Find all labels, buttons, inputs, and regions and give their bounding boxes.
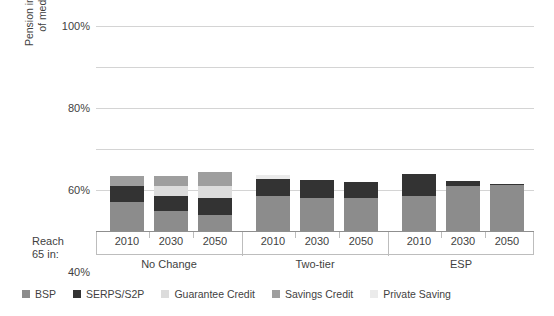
pension-income-stacked-bar-chart: Pension income as percentage of median e… [0, 0, 554, 316]
x-tick-label-no-change-2030: 2030 [149, 235, 193, 247]
x-tick-label-esp-2050: 2050 [485, 235, 529, 247]
legend-item-private-saving[interactable]: Private Saving [370, 288, 451, 300]
x-axis-group-labels: No ChangeTwo-tierESP [96, 256, 534, 278]
legend-swatch-icon [370, 290, 378, 298]
x-tick-label-esp-2030: 2030 [441, 235, 485, 247]
legend-swatch-icon [161, 290, 169, 298]
bar-segment-serps-s2p [198, 198, 232, 214]
bar-no-change-2010[interactable] [110, 176, 144, 231]
bar-segment-savings-credit [198, 172, 232, 186]
bar-segment-bsp [256, 196, 290, 231]
bar-no-change-2030[interactable] [154, 176, 188, 231]
bar-no-change-2050[interactable] [198, 172, 232, 231]
bar-segment-serps-s2p [154, 196, 188, 210]
bar-segment-serps-s2p [256, 179, 290, 196]
x-axis-tick [485, 232, 486, 238]
bars-layer [96, 26, 534, 232]
bar-two-tier-2030[interactable] [300, 180, 334, 231]
x-axis-tick [441, 232, 442, 238]
x-axis-tick [339, 232, 340, 238]
legend-label: Private Saving [383, 288, 451, 300]
legend-swatch-icon [73, 290, 81, 298]
group-label-esp: ESP [388, 258, 534, 270]
bar-segment-bsp [110, 202, 144, 231]
legend-swatch-icon [22, 290, 30, 298]
x-axis-year-labels: 201020302050201020302050201020302050 [96, 232, 534, 255]
y-axis-title-line-2: of median earnings at 75 [36, 0, 49, 32]
y-tick-label-60: 60% [68, 184, 90, 196]
x-axis-tick [533, 232, 534, 254]
legend-item-serps-s2p[interactable]: SERPS/S2P [73, 288, 144, 300]
bar-segment-serps-s2p [344, 182, 378, 198]
bar-esp-2010[interactable] [402, 174, 436, 231]
group-separator [388, 232, 389, 256]
reach-label-line-1: Reach [32, 235, 94, 248]
bar-esp-2050[interactable] [490, 184, 524, 231]
legend-item-bsp[interactable]: BSP [22, 288, 56, 300]
bar-segment-savings-credit [154, 176, 188, 186]
y-tick-label-40: 40% [68, 266, 90, 278]
bar-segment-guarantee-credit [154, 186, 188, 196]
bar-segment-bsp [344, 198, 378, 231]
bar-segment-bsp [154, 211, 188, 232]
y-axis-title-line-1: Pension income as percentage [23, 0, 36, 46]
reach-65-in-label: Reach 65 in: [32, 235, 94, 261]
group-separator [242, 232, 243, 256]
bar-two-tier-2010[interactable] [256, 175, 290, 231]
x-tick-label-no-change-2010: 2010 [105, 235, 149, 247]
bar-segment-bsp [446, 186, 480, 231]
x-tick-label-two-tier-2030: 2030 [295, 235, 339, 247]
x-axis-tick [149, 232, 150, 238]
legend-item-savings-credit[interactable]: Savings Credit [272, 288, 353, 300]
x-axis-tick [193, 232, 194, 238]
bar-segment-bsp [300, 198, 334, 231]
bar-segment-serps-s2p [110, 186, 144, 202]
bar-esp-2030[interactable] [446, 181, 480, 231]
legend-item-guarantee-credit[interactable]: Guarantee Credit [161, 288, 255, 300]
x-tick-label-two-tier-2050: 2050 [339, 235, 383, 247]
bar-segment-serps-s2p [300, 180, 334, 198]
legend-label: Guarantee Credit [174, 288, 255, 300]
x-axis-tick [96, 232, 97, 254]
y-tick-label-80: 80% [68, 102, 90, 114]
bar-segment-bsp [490, 185, 524, 231]
bar-two-tier-2050[interactable] [344, 182, 378, 231]
y-tick-label-100: 100% [62, 20, 90, 32]
reach-label-line-2: 65 in: [32, 248, 94, 261]
bar-segment-serps-s2p [402, 174, 436, 197]
group-label-no-change: No Change [96, 258, 242, 270]
chart-legend: BSPSERPS/S2PGuarantee CreditSavings Cred… [22, 288, 451, 300]
legend-label: BSP [35, 288, 56, 300]
bar-segment-savings-credit [110, 176, 144, 186]
plot-area: 0%20%40%60%80%100% [96, 26, 534, 232]
legend-label: SERPS/S2P [86, 288, 144, 300]
x-tick-label-two-tier-2010: 2010 [251, 235, 295, 247]
legend-swatch-icon [272, 290, 280, 298]
y-axis-title: Pension income as percentage of median e… [14, 0, 58, 74]
x-tick-label-no-change-2050: 2050 [193, 235, 237, 247]
bar-segment-bsp [402, 196, 436, 231]
x-axis-tick [295, 232, 296, 238]
group-label-two-tier: Two-tier [242, 258, 388, 270]
bar-segment-guarantee-credit [198, 186, 232, 198]
x-tick-label-esp-2010: 2010 [397, 235, 441, 247]
legend-label: Savings Credit [285, 288, 353, 300]
bar-segment-bsp [198, 215, 232, 231]
